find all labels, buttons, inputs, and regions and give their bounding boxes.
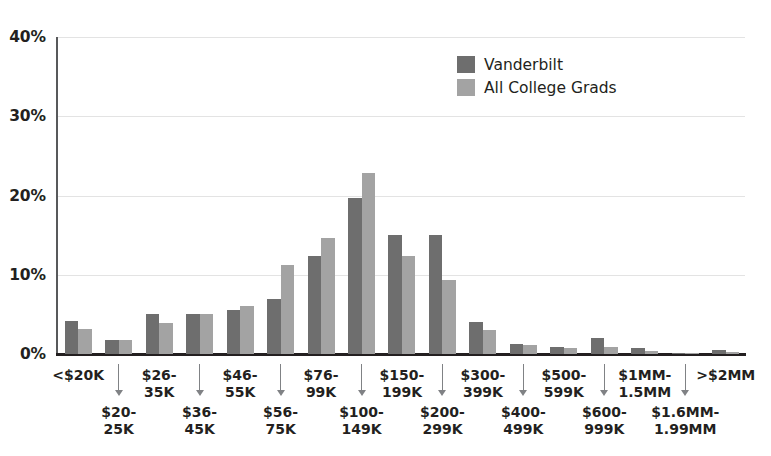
x-axis-label-line: >$2MM (676, 367, 771, 384)
bar (200, 314, 214, 354)
bar (78, 329, 92, 354)
bar (308, 256, 322, 354)
bar (159, 323, 173, 354)
x-axis-label: $1.6MM-1.99MM (635, 404, 735, 438)
bar (591, 338, 605, 354)
legend-label: Vanderbilt (484, 56, 563, 74)
bar-group (341, 37, 381, 354)
bar (321, 238, 335, 354)
income-distribution-bar-chart: 0%10%20%30%40% VanderbiltAll College Gra… (0, 0, 771, 456)
x-axis-label-line: $1.6MM- (635, 404, 735, 421)
bar (186, 314, 200, 354)
bar-group (220, 37, 260, 354)
bar-group (301, 37, 341, 354)
bar (564, 348, 578, 354)
bar (227, 310, 241, 354)
legend-label: All College Grads (484, 79, 617, 97)
bar (483, 330, 497, 354)
bar (604, 347, 618, 354)
bar (281, 265, 295, 354)
arrow-head (681, 390, 689, 396)
bar-group (260, 37, 300, 354)
bar (469, 322, 483, 354)
legend-swatch-icon (457, 56, 475, 73)
bar (429, 235, 443, 354)
y-tick-label: 30% (9, 107, 46, 125)
bar (105, 340, 119, 354)
bar (65, 321, 79, 354)
bar-group (139, 37, 179, 354)
bar (240, 306, 254, 354)
bar (362, 173, 376, 354)
bar-group (58, 37, 98, 354)
bar (726, 352, 740, 354)
bar (388, 235, 402, 354)
bar (402, 256, 416, 354)
bar (146, 314, 160, 354)
bar (523, 345, 537, 355)
bar (348, 198, 362, 354)
legend: VanderbiltAll College Grads (457, 53, 687, 99)
bar-group (179, 37, 219, 354)
x-axis-label-line: 1.99MM (635, 421, 735, 438)
bar (550, 347, 564, 354)
bar-group (98, 37, 138, 354)
y-tick-label: 40% (9, 28, 46, 46)
bar (645, 351, 659, 354)
bar (685, 353, 699, 354)
bar (267, 299, 281, 354)
bar (442, 280, 456, 354)
bar-group (382, 37, 422, 354)
x-axis-category-labels: <$20K$20-25K$26-35K$36-45K$46-55K$56-75K… (0, 356, 771, 456)
y-tick-label: 10% (9, 266, 46, 284)
y-axis: 0%10%20%30%40% (0, 0, 52, 360)
bar (119, 340, 133, 354)
bar (712, 350, 726, 354)
y-tick-label: 20% (9, 187, 46, 205)
bar-group (706, 37, 746, 354)
legend-item[interactable]: Vanderbilt (457, 53, 687, 76)
x-axis-label: >$2MM (676, 367, 771, 384)
legend-item[interactable]: All College Grads (457, 76, 687, 99)
legend-swatch-icon (457, 79, 475, 96)
bar (510, 344, 524, 354)
bar (672, 353, 686, 354)
bar (631, 348, 645, 354)
